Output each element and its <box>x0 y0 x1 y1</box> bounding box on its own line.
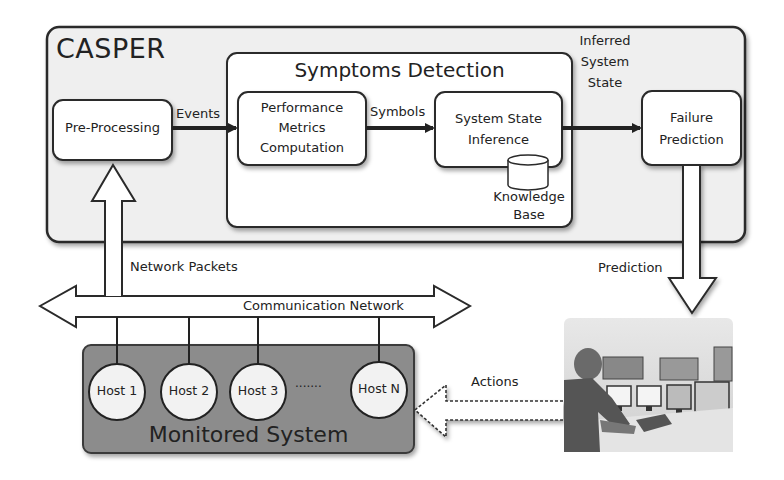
actions-arrow <box>415 385 563 437</box>
knowledge-base-line-1: Knowledge <box>484 188 574 206</box>
knowledge-base-label: Knowledge Base <box>484 188 574 224</box>
failure-prediction-line-1: Failure <box>642 107 741 129</box>
host-3-label: Host 3 <box>230 384 286 398</box>
host-2-label: Host 2 <box>161 384 217 398</box>
inferred-state-label: Inferred System State <box>573 30 637 93</box>
inferred-state-line-3: State <box>573 72 637 93</box>
host-1-label: Host 1 <box>89 384 145 398</box>
host-n-label: Host N <box>351 382 407 396</box>
host-ellipsis: ······· <box>295 381 322 395</box>
database-icon <box>508 155 548 190</box>
system-state-inference-label: System State Inference <box>435 108 562 150</box>
inferred-state-line-1: Inferred <box>573 30 637 51</box>
performance-metrics-label: Performance Metrics Computation <box>238 98 366 158</box>
performance-metrics-line-2: Metrics <box>238 118 366 138</box>
network-packets-label: Network Packets <box>130 260 238 275</box>
knowledge-base-line-2: Base <box>484 206 574 224</box>
performance-metrics-line-3: Computation <box>238 138 366 158</box>
prediction-label: Prediction <box>598 261 663 276</box>
communication-network-label: Communication Network <box>243 299 404 314</box>
actions-label: Actions <box>471 375 519 390</box>
failure-prediction-label: Failure Prediction <box>642 107 741 151</box>
inferred-state-line-2: System <box>573 51 637 72</box>
casper-title: CASPER <box>56 33 166 64</box>
monitored-system-title: Monitored System <box>83 422 414 447</box>
symptoms-detection-title: Symptoms Detection <box>227 59 572 82</box>
pre-processing-label: Pre-Processing <box>53 121 172 136</box>
operator-control-room-photo <box>564 318 733 452</box>
performance-metrics-line-1: Performance <box>238 98 366 118</box>
symbols-label: Symbols <box>370 105 425 120</box>
events-label: Events <box>176 107 220 122</box>
system-state-inference-line-2: Inference <box>435 129 562 150</box>
failure-prediction-line-2: Prediction <box>642 129 741 151</box>
system-state-inference-line-1: System State <box>435 108 562 129</box>
